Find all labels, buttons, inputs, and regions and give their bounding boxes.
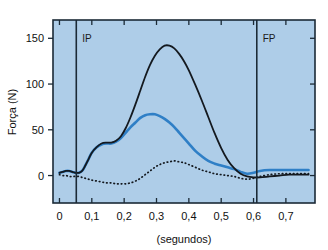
x-tick-label-1: 0,1 xyxy=(84,210,99,222)
marker-label-fp: FP xyxy=(263,33,276,44)
y-tick-label-2: 100 xyxy=(26,78,44,90)
force-time-chart-figure: 00,10,20,30,40,50,60,7 050100150 IPFP (s… xyxy=(0,0,328,250)
y-tick-label-1: 50 xyxy=(32,124,44,136)
x-tick-label-2: 0,2 xyxy=(117,210,132,222)
y-tick-label-0: 0 xyxy=(38,170,44,182)
x-tick-label-5: 0,5 xyxy=(214,210,229,222)
x-tick-label-0: 0 xyxy=(56,210,62,222)
x-tick-label-7: 0,7 xyxy=(278,210,293,222)
x-tick-label-3: 0,3 xyxy=(149,210,164,222)
x-tick-label-4: 0,4 xyxy=(181,210,196,222)
y-axis-title: Força (N) xyxy=(6,89,18,135)
x-tick-label-6: 0,6 xyxy=(246,210,261,222)
chart-svg: 00,10,20,30,40,50,60,7 050100150 IPFP (s… xyxy=(0,0,328,250)
y-tick-label-3: 150 xyxy=(26,32,44,44)
x-axis-title: (segundos) xyxy=(156,233,211,245)
marker-label-ip: IP xyxy=(82,33,92,44)
